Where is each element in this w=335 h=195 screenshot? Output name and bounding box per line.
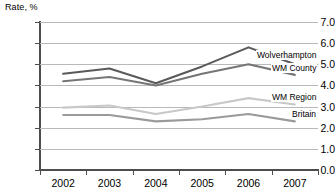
series-label-wolverhampton: Wolverhampton <box>256 50 317 60</box>
series-label-wm-region: WM Region <box>271 92 317 102</box>
series-label-britain: Britain <box>291 109 317 119</box>
series-line <box>63 114 295 121</box>
series-line <box>63 98 295 114</box>
series-label-wm-county: WM County <box>271 63 317 73</box>
line-chart: Rate, % 0.01.02.03.04.05.06.07.0 2002200… <box>0 0 335 195</box>
